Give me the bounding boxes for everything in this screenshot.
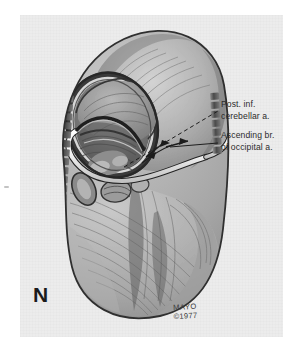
figure-root: Post. inf. cerebellar a. Ascending br. o… bbox=[0, 0, 295, 351]
credit-copyright: ©1977 bbox=[173, 311, 197, 322]
label-line-1: Post. inf. bbox=[221, 99, 255, 109]
label-line-1: Ascending br. bbox=[221, 130, 274, 140]
surgical-field bbox=[20, 15, 283, 337]
nuchal-muscle bbox=[20, 165, 283, 337]
label-ascending-branch-occipital-artery: Ascending br. of occipital a. bbox=[221, 130, 274, 153]
label-line-2: of occipital a. bbox=[221, 142, 274, 154]
label-line-2: cerebellar a. bbox=[221, 111, 270, 123]
anatomical-illustration bbox=[20, 15, 283, 337]
label-post-inf-cerebellar-artery: Post. inf. cerebellar a. bbox=[221, 99, 270, 122]
stray-mark bbox=[4, 186, 9, 188]
mayo-credit: MAYO ©1977 bbox=[173, 302, 197, 322]
panel-letter: N bbox=[33, 283, 48, 307]
